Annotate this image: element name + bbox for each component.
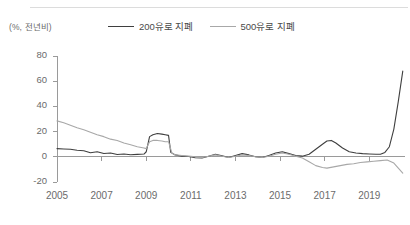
x-axis-tick-label: 2011 — [171, 190, 211, 201]
x-axis-tick-label: 2013 — [215, 190, 255, 201]
data-series-line — [57, 121, 403, 173]
x-axis-tick-label: 2015 — [260, 190, 300, 201]
x-axis-tick-label: 2009 — [126, 190, 166, 201]
x-axis-tick-label: 2007 — [82, 190, 122, 201]
x-axis-tick-label: 2017 — [305, 190, 345, 201]
x-axis-tick-label: 2019 — [349, 190, 389, 201]
y-axis-tick-label: 20 — [21, 125, 47, 136]
y-axis-ticks — [53, 56, 57, 182]
data-series-group — [57, 71, 403, 173]
axis-group — [53, 56, 405, 182]
y-axis-tick-label: 0 — [21, 150, 47, 161]
data-series-line — [57, 71, 403, 158]
x-axis-ticks — [102, 157, 370, 161]
y-axis-tick-label: 80 — [21, 49, 47, 60]
y-axis-tick-label: 40 — [21, 99, 47, 110]
y-axis-tick-label: -20 — [21, 175, 47, 186]
y-axis-tick-label: 60 — [21, 74, 47, 85]
chart-figure: (%, 전년비) 200유로 지폐 500유로 지폐 -20020406080 … — [0, 0, 410, 225]
x-axis-tick-label: 2005 — [37, 190, 77, 201]
